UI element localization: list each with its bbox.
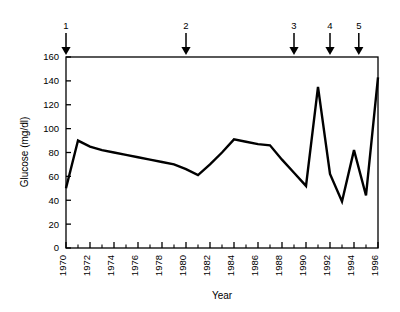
glucose-line-chart: 12345 020406080100120140160 197019721974…	[0, 0, 400, 312]
x-tick-label: 1982	[201, 255, 212, 276]
y-tick-label: 80	[48, 147, 59, 158]
x-tick-label: 1978	[153, 255, 164, 276]
y-tick-label: 60	[48, 171, 59, 182]
x-tick-label: 1986	[249, 255, 260, 276]
y-tick-label: 40	[48, 195, 59, 206]
annotation-arrow-label: 1	[63, 20, 68, 31]
x-tick-label: 1980	[177, 255, 188, 276]
x-tick-label: 1996	[369, 255, 380, 276]
x-axis-title: Year	[212, 290, 233, 301]
x-tick-label: 1992	[321, 255, 332, 276]
annotation-arrow-label: 5	[356, 20, 361, 31]
y-axis-title: Glucose (mg/dl)	[19, 117, 30, 188]
x-tick-label: 1994	[345, 255, 356, 276]
x-tick-label: 1974	[105, 255, 116, 276]
y-tick-label: 120	[43, 99, 59, 110]
annotation-arrow-label: 3	[291, 20, 296, 31]
y-tick-label: 140	[43, 75, 59, 86]
y-tick-label: 160	[43, 51, 59, 62]
annotation-arrow-label: 2	[183, 20, 188, 31]
x-tick-label: 1990	[297, 255, 308, 276]
x-tick-label: 1988	[273, 255, 284, 276]
x-tick-label: 1972	[81, 255, 92, 276]
annotation-arrow-label: 4	[327, 20, 332, 31]
x-tick-label: 1970	[57, 255, 68, 276]
x-tick-label: 1976	[129, 255, 140, 276]
x-tick-label: 1984	[225, 255, 236, 276]
y-tick-label: 20	[48, 219, 59, 230]
chart-figure: 12345 020406080100120140160 197019721974…	[0, 0, 400, 312]
y-tick-label: 100	[43, 123, 59, 134]
y-tick-label: 0	[54, 242, 59, 253]
